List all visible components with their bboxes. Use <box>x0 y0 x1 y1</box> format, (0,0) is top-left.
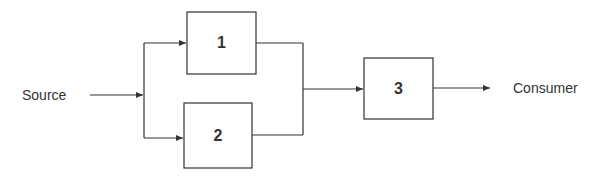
consumer-label: Consumer <box>513 81 578 95</box>
block-2-label: 2 <box>184 103 252 168</box>
block-1-label: 1 <box>187 12 256 74</box>
block-3-label: 3 <box>364 58 433 119</box>
source-label: Source <box>22 88 66 102</box>
